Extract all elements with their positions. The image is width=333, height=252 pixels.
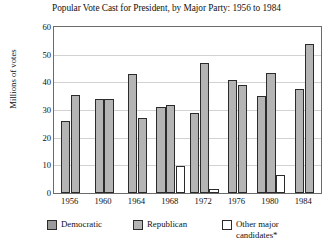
bar-group — [154, 27, 187, 193]
x-tick-label: 1960 — [86, 196, 119, 206]
bar-1968-other — [176, 166, 185, 193]
y-tick-label: 0 — [27, 189, 51, 198]
bar-group — [221, 27, 254, 193]
legend-item-other[interactable]: Other major candidates* — [222, 219, 294, 240]
bar-1976-democratic — [228, 80, 237, 193]
bar-group — [121, 27, 154, 193]
y-tick-label: 20 — [27, 133, 51, 142]
x-tick-label: 1964 — [120, 196, 153, 206]
x-tick-label: 1968 — [153, 196, 186, 206]
x-tick-label: 1956 — [53, 196, 86, 206]
x-tick-label: 1984 — [287, 196, 320, 206]
x-tick-label: 1980 — [253, 196, 286, 206]
y-tick-label: 60 — [27, 23, 51, 32]
legend-label: Republican — [147, 219, 187, 230]
plot-area — [53, 26, 322, 194]
y-tick-label: 50 — [27, 50, 51, 59]
bar-1968-republican — [166, 105, 175, 193]
bar-1964-republican — [138, 118, 147, 193]
y-tick-label: 40 — [27, 78, 51, 87]
legend-item-democratic[interactable]: Democratic — [47, 219, 102, 230]
bar-1980-republican — [266, 73, 275, 193]
legend-swatch-icon — [47, 220, 57, 230]
bar-1980-other — [276, 175, 285, 193]
popular-vote-bar-chart: Popular Vote Cast for President, by Majo… — [0, 0, 333, 252]
legend-item-republican[interactable]: Republican — [133, 219, 187, 230]
bar-1956-republican — [71, 95, 80, 193]
y-axis-tick-labels: 0102030405060 — [27, 26, 51, 194]
bar-1964-democratic — [128, 74, 137, 193]
chart-legend: DemocraticRepublicanOther major candidat… — [0, 219, 333, 251]
bar-1956-democratic — [61, 121, 70, 193]
y-tick-label: 30 — [27, 106, 51, 115]
legend-label: Democratic — [61, 219, 102, 230]
y-axis-title: Millions of votes — [8, 19, 18, 139]
chart-title: Popular Vote Cast for President, by Majo… — [0, 3, 333, 13]
bar-1984-republican — [305, 44, 314, 193]
legend-label: Other major candidates* — [236, 219, 294, 240]
bar-group — [54, 27, 87, 193]
bar-group — [188, 27, 221, 193]
bar-1972-republican — [200, 63, 209, 193]
bar-1976-republican — [238, 85, 247, 193]
x-axis-tick-labels: 19561960196419681972197619801984 — [53, 196, 322, 210]
bar-1980-democratic — [257, 96, 266, 193]
bar-1972-other — [209, 189, 218, 193]
y-tick-label: 10 — [27, 161, 51, 170]
bar-1972-democratic — [190, 113, 199, 193]
legend-swatch-icon — [133, 220, 143, 230]
bars-layer — [54, 27, 321, 193]
x-tick-label: 1976 — [220, 196, 253, 206]
bar-group — [254, 27, 287, 193]
bar-1960-democratic — [95, 99, 104, 193]
bar-1960-republican — [104, 99, 113, 193]
bar-1984-democratic — [295, 89, 304, 193]
bar-1968-democratic — [156, 107, 165, 193]
bar-group — [288, 27, 321, 193]
legend-swatch-icon — [222, 220, 232, 230]
bar-group — [87, 27, 120, 193]
x-tick-label: 1972 — [187, 196, 220, 206]
